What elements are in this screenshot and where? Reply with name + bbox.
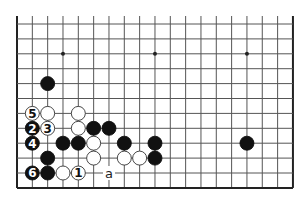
black-stone-icon <box>41 77 55 91</box>
point-labels: a <box>103 166 115 181</box>
white-stone-icon <box>87 151 101 165</box>
move-number: 6 <box>28 166 36 180</box>
white-stone <box>41 106 55 120</box>
black-stone-icon <box>148 136 162 150</box>
move-number: 2 <box>28 122 36 136</box>
white-stone <box>56 166 70 180</box>
black-stone-icon <box>41 151 55 165</box>
point-label: a <box>105 166 113 181</box>
black-stone-move-4: 4 <box>25 136 39 150</box>
black-stone-icon <box>102 121 116 135</box>
move-number: 3 <box>43 122 51 136</box>
black-stone <box>148 151 162 165</box>
white-stone <box>87 151 101 165</box>
black-stone <box>117 136 131 150</box>
black-stone-icon <box>240 136 254 150</box>
white-stone-icon <box>117 151 131 165</box>
black-stone-icon <box>41 166 55 180</box>
white-stone-move-1: 1 <box>71 166 85 180</box>
white-stone <box>133 151 147 165</box>
black-stone-move-2: 2 <box>25 121 39 135</box>
black-stone <box>240 136 254 150</box>
white-stone-icon <box>133 151 147 165</box>
white-stone-icon <box>71 121 85 135</box>
black-stone <box>41 77 55 91</box>
black-stone-icon <box>56 136 70 150</box>
move-number: 5 <box>28 107 36 121</box>
black-stone <box>41 151 55 165</box>
black-stone <box>148 136 162 150</box>
black-stone <box>87 121 101 135</box>
black-stone-icon <box>148 151 162 165</box>
white-stone <box>117 151 131 165</box>
black-stone <box>71 136 85 150</box>
white-stone-icon <box>56 166 70 180</box>
go-board-diagram: a 523461 <box>0 0 305 200</box>
black-stone-icon <box>87 121 101 135</box>
white-stone-move-3: 3 <box>41 121 55 135</box>
star-point-icon <box>153 52 157 56</box>
white-stone <box>71 121 85 135</box>
white-stone <box>71 106 85 120</box>
black-stone <box>102 121 116 135</box>
black-stone-icon <box>117 136 131 150</box>
black-stone-move-6: 6 <box>25 166 39 180</box>
black-stone-icon <box>71 136 85 150</box>
move-number: 4 <box>28 137 36 151</box>
move-number: 1 <box>74 166 82 180</box>
white-stone <box>87 136 101 150</box>
star-point-icon <box>245 52 249 56</box>
star-point-icon <box>61 52 65 56</box>
white-stone-icon <box>41 106 55 120</box>
white-stone-icon <box>87 136 101 150</box>
black-stone <box>56 136 70 150</box>
black-stone <box>41 166 55 180</box>
white-stone-move-5: 5 <box>25 106 39 120</box>
white-stone-icon <box>71 106 85 120</box>
